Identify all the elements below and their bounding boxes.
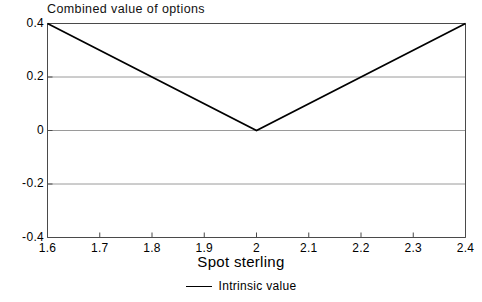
- legend-line-swatch: [186, 286, 212, 287]
- y-tick-label: 0.2: [26, 69, 44, 83]
- x-axis-title: Spot sterling: [0, 253, 482, 270]
- chart-container: Combined value of options 0.40.20-0.2-0.…: [0, 0, 482, 302]
- y-tick-label: 0: [37, 123, 44, 137]
- chart-legend: Intrinsic value: [0, 279, 482, 293]
- legend-label-intrinsic-value: Intrinsic value: [219, 279, 297, 293]
- y-tick-label: 0.4: [26, 16, 44, 30]
- y-tick-label: -0.2: [22, 176, 44, 190]
